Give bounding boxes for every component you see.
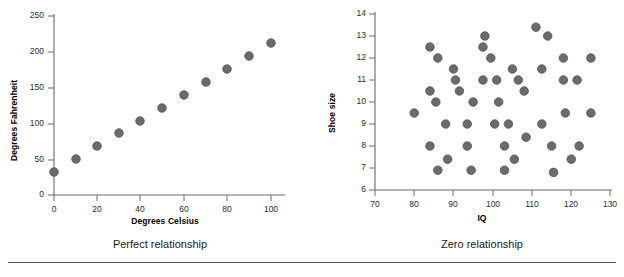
y-tick-label: 11 <box>334 74 366 84</box>
data-point <box>410 109 419 118</box>
x-tick-label: 120 <box>557 199 585 209</box>
data-point <box>481 32 490 41</box>
y-tick-label: 0 <box>14 189 44 199</box>
data-points-iq <box>410 23 595 177</box>
y-tick-label: 13 <box>334 30 366 40</box>
x-tick-label: 130 <box>596 199 624 209</box>
data-point <box>538 65 547 74</box>
panel-zero-relationship: 14 13 12 11 10 9 8 7 6 70 80 90 100 110 … <box>312 0 624 277</box>
data-point <box>486 54 495 63</box>
data-point <box>443 155 452 164</box>
data-point <box>202 78 211 87</box>
y-tick-label: 250 <box>14 10 44 20</box>
x-tick-label: 60 <box>170 204 198 214</box>
x-tick-label: 80 <box>400 199 428 209</box>
figure-container: 250 200 150 100 50 0 0 20 40 60 80 100 D… <box>0 0 624 277</box>
data-point <box>543 32 552 41</box>
data-points-celsius <box>50 39 276 177</box>
x-tick-label: 90 <box>439 199 467 209</box>
x-tick-label: 110 <box>518 199 546 209</box>
data-point <box>441 120 450 129</box>
data-point <box>549 168 558 177</box>
data-point <box>567 155 576 164</box>
data-point <box>559 76 568 85</box>
data-point <box>587 109 596 118</box>
data-point <box>538 120 547 129</box>
data-point <box>559 54 568 63</box>
data-point <box>492 76 501 85</box>
y-tick-label: 12 <box>334 52 366 62</box>
data-point <box>494 98 503 107</box>
data-point <box>514 76 523 85</box>
data-point <box>455 87 464 96</box>
data-point <box>426 43 435 52</box>
y-tick-label: 14 <box>334 8 366 18</box>
data-point <box>561 109 570 118</box>
data-point <box>426 87 435 96</box>
data-point <box>463 120 472 129</box>
x-axis-ticks <box>54 195 271 201</box>
data-point <box>426 142 435 151</box>
y-axis-ticks <box>369 14 375 190</box>
data-point <box>449 65 458 74</box>
data-point <box>115 129 124 138</box>
data-point <box>180 91 189 100</box>
data-point <box>158 104 167 113</box>
data-point <box>508 65 517 74</box>
data-point <box>467 166 476 175</box>
data-point <box>522 133 531 142</box>
data-point <box>469 98 478 107</box>
data-point <box>434 54 443 63</box>
data-point <box>432 98 441 107</box>
data-point <box>500 142 509 151</box>
y-tick-label: 6 <box>334 184 366 194</box>
y-tick-label: 200 <box>14 46 44 56</box>
x-tick-label: 40 <box>126 204 154 214</box>
data-point <box>223 65 232 74</box>
panel-perfect-relationship: 250 200 150 100 50 0 0 20 40 60 80 100 D… <box>0 0 312 277</box>
data-point <box>575 142 584 151</box>
data-point <box>490 120 499 129</box>
data-point <box>434 166 443 175</box>
data-point <box>479 43 488 52</box>
data-point <box>500 166 509 175</box>
data-point <box>136 117 145 126</box>
scatter-plot-celsius-fahrenheit <box>0 0 312 277</box>
y-tick-label: 10 <box>334 96 366 106</box>
x-tick-label: 0 <box>40 204 68 214</box>
y-tick-label: 8 <box>334 140 366 150</box>
data-point <box>93 142 102 151</box>
data-point <box>245 52 254 61</box>
data-point <box>479 76 488 85</box>
data-point <box>72 155 81 164</box>
data-point <box>510 155 519 164</box>
y-axis-title: Shoe size <box>327 93 337 133</box>
y-tick-label: 7 <box>334 162 366 172</box>
scatter-plot-iq-shoesize <box>312 0 624 277</box>
x-tick-label: 100 <box>257 204 285 214</box>
panel-caption: Perfect relationship <box>40 238 280 250</box>
data-point <box>451 76 460 85</box>
x-tick-label: 80 <box>213 204 241 214</box>
data-point <box>504 120 513 129</box>
data-point <box>267 39 276 48</box>
x-tick-label: 100 <box>479 199 507 209</box>
y-axis-title: Degrees Fahrenheit <box>9 80 19 161</box>
data-point <box>463 142 472 151</box>
x-axis-title: Degrees Celsius <box>90 216 240 226</box>
panel-caption: Zero relationship <box>362 238 602 250</box>
data-point <box>532 23 541 32</box>
x-axis-title: IQ <box>432 213 532 223</box>
y-tick-label: 9 <box>334 118 366 128</box>
data-point <box>547 142 556 151</box>
data-point <box>573 76 582 85</box>
data-point <box>520 87 529 96</box>
footer-divider <box>8 262 616 263</box>
x-tick-label: 20 <box>83 204 111 214</box>
x-axis-ticks <box>375 190 610 196</box>
data-point <box>587 54 596 63</box>
data-point <box>50 168 59 177</box>
x-tick-label: 70 <box>361 199 389 209</box>
